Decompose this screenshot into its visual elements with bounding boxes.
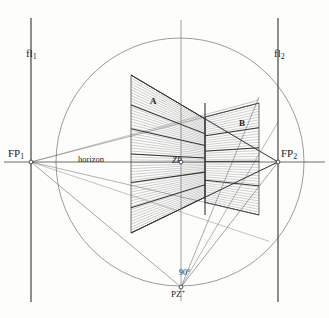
label-vanishing-line-right: fl2 (274, 48, 285, 61)
label-focus-point-right: FP2 (281, 148, 297, 161)
label-focus-point-left: FP1 (8, 148, 24, 161)
label-vanishing-line-left: fl1 (26, 48, 37, 61)
label-plane-b: B (239, 119, 245, 128)
perspective-diagram: fl1 fl2 FP1 FP2 horizon ZP A B 90° PZ+ (0, 0, 329, 318)
label-center-point: ZP (172, 156, 182, 165)
plane-b-band-lines (31, 103, 259, 215)
label-station-point: PZ+ (171, 289, 185, 299)
label-horizon: horizon (78, 155, 104, 164)
plane-b-hatching (31, 103, 259, 215)
diagonal-construction-group (31, 75, 278, 287)
label-right-angle: 90° (179, 269, 190, 277)
label-plane-a: A (150, 97, 157, 106)
